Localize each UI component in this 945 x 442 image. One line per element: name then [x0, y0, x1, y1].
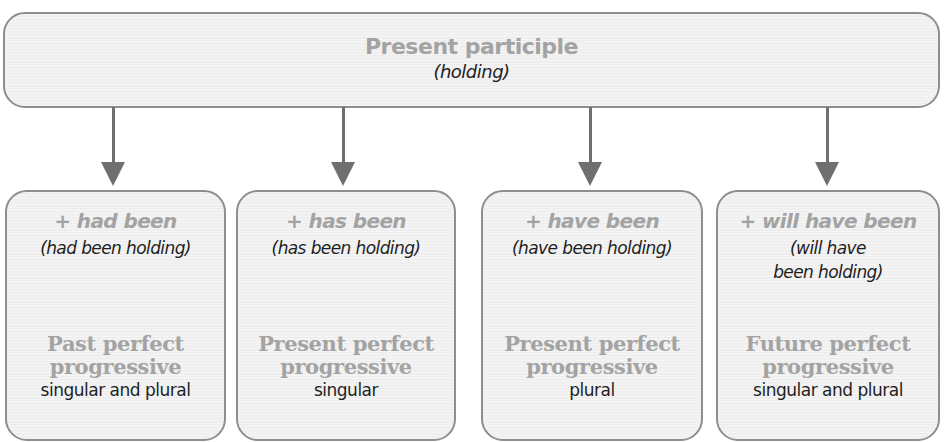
arrow-head-icon — [815, 162, 839, 186]
tense-name-line2: progressive — [238, 355, 454, 378]
tense-block: Present perfect progressive singular — [238, 332, 454, 402]
past-perfect-progressive-box: + had been (had been holding) Past perfe… — [5, 190, 226, 441]
present-perfect-progressive-singular-box: + has been (has been holding) Present pe… — [236, 190, 456, 441]
arrow-shaft — [342, 107, 345, 163]
tense-name-line2: progressive — [7, 355, 224, 378]
arrow-shaft — [826, 107, 829, 163]
example-text-line1: (will have — [718, 236, 938, 260]
present-participle-title: Present participle — [5, 34, 938, 60]
auxiliary-label: + had been — [7, 208, 224, 234]
present-perfect-progressive-plural-box: + have been (have been holding) Present … — [481, 190, 703, 441]
auxiliary-label: + has been — [238, 208, 454, 234]
grammatical-number: singular and plural — [718, 378, 938, 402]
tense-block: Past perfect progressive singular and pl… — [7, 332, 224, 402]
future-perfect-progressive-box: + will have been (will have been holding… — [716, 190, 940, 441]
example-text: (had been holding) — [7, 236, 224, 260]
arrow-head-icon — [101, 162, 125, 186]
tense-name-line1: Past perfect — [7, 332, 224, 355]
auxiliary-label: + will have been — [718, 208, 938, 234]
grammatical-number: plural — [483, 378, 701, 402]
arrow-shaft — [589, 107, 592, 163]
tense-name-line2: progressive — [483, 355, 701, 378]
arrow-head-icon — [578, 162, 602, 186]
tense-name-line2: progressive — [718, 355, 938, 378]
tense-name-line1: Future perfect — [718, 332, 938, 355]
arrow-shaft — [112, 107, 115, 163]
tense-name-line1: Present perfect — [483, 332, 701, 355]
tense-block: Future perfect progressive singular and … — [718, 332, 938, 402]
present-participle-box: Present participle (holding) — [3, 12, 940, 108]
auxiliary-label: + have been — [483, 208, 701, 234]
arrow-head-icon — [331, 162, 355, 186]
grammatical-number: singular and plural — [7, 378, 224, 402]
tense-block: Present perfect progressive plural — [483, 332, 701, 402]
example-text: (have been holding) — [483, 236, 701, 260]
tense-name-line1: Present perfect — [238, 332, 454, 355]
grammatical-number: singular — [238, 378, 454, 402]
example-text-line2: been holding) — [718, 260, 938, 284]
example-text: (has been holding) — [238, 236, 454, 260]
present-participle-example: (holding) — [5, 60, 938, 84]
